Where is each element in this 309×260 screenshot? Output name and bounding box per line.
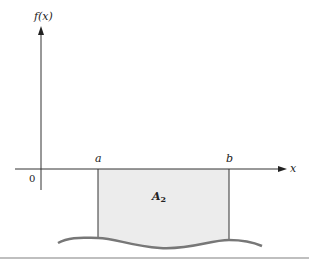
origin-label: 0 [29,173,35,184]
y-axis-arrow-icon [38,26,44,35]
x-axis-arrow-icon [278,166,287,172]
x-axis-label: x [290,162,297,175]
region-label-main: A [151,190,161,203]
diagram-svg: f(x) x 0 a b A2 [0,0,309,260]
upper-limit-label: b [226,152,233,165]
y-axis-label: f(x) [33,10,53,23]
shaded-region-a2 [98,169,229,248]
integral-area-diagram: f(x) x 0 a b A2 [0,0,309,260]
lower-limit-label: a [95,152,102,165]
region-label-subscript: 2 [161,194,167,204]
